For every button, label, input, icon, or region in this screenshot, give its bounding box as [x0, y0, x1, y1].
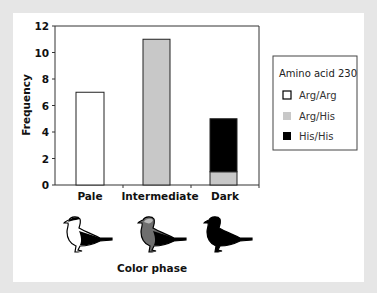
- y-tick-label: 4: [42, 126, 49, 138]
- bar-dark-his-his: [210, 119, 237, 172]
- bar-dark-arg-his: [210, 172, 237, 185]
- legend-label-arg-arg: Arg/Arg: [299, 90, 337, 101]
- y-tick-label: 10: [34, 47, 49, 59]
- legend-label-his-his: His/His: [299, 131, 333, 142]
- intermediate-bird-icon: [138, 217, 186, 252]
- y-tick-label: 2: [42, 153, 49, 165]
- y-tick-label: 12: [34, 20, 49, 32]
- dark-bird-icon: [204, 217, 252, 252]
- y-axis-title: Frequency: [20, 74, 32, 136]
- chart-svg: 0 2 4 6 8 10 12 Frequency Pale Intermedi…: [0, 0, 377, 293]
- y-tick-label: 0: [42, 179, 49, 191]
- legend-label-arg-his: Arg/His: [299, 111, 335, 122]
- category-label-intermediate: Intermediate: [121, 190, 198, 202]
- bar-pale-arg-arg: [76, 92, 104, 185]
- legend-swatch-arg-arg: [283, 91, 291, 99]
- legend-swatch-his-his: [283, 132, 291, 140]
- y-tick-label: 8: [42, 73, 49, 85]
- y-ticks: 0 2 4 6 8 10 12: [34, 20, 55, 191]
- x-axis-title: Color phase: [117, 262, 187, 274]
- legend: Amino acid 230 Arg/Arg Arg/His His/His: [273, 56, 357, 150]
- category-label-pale: Pale: [77, 190, 102, 202]
- legend-title: Amino acid 230: [279, 68, 357, 79]
- bar-intermediate-arg-his: [143, 39, 170, 185]
- category-label-dark: Dark: [211, 190, 240, 202]
- bars: [76, 39, 237, 185]
- pale-bird-icon: [64, 217, 112, 252]
- legend-swatch-arg-his: [283, 112, 291, 120]
- y-tick-label: 6: [42, 100, 49, 112]
